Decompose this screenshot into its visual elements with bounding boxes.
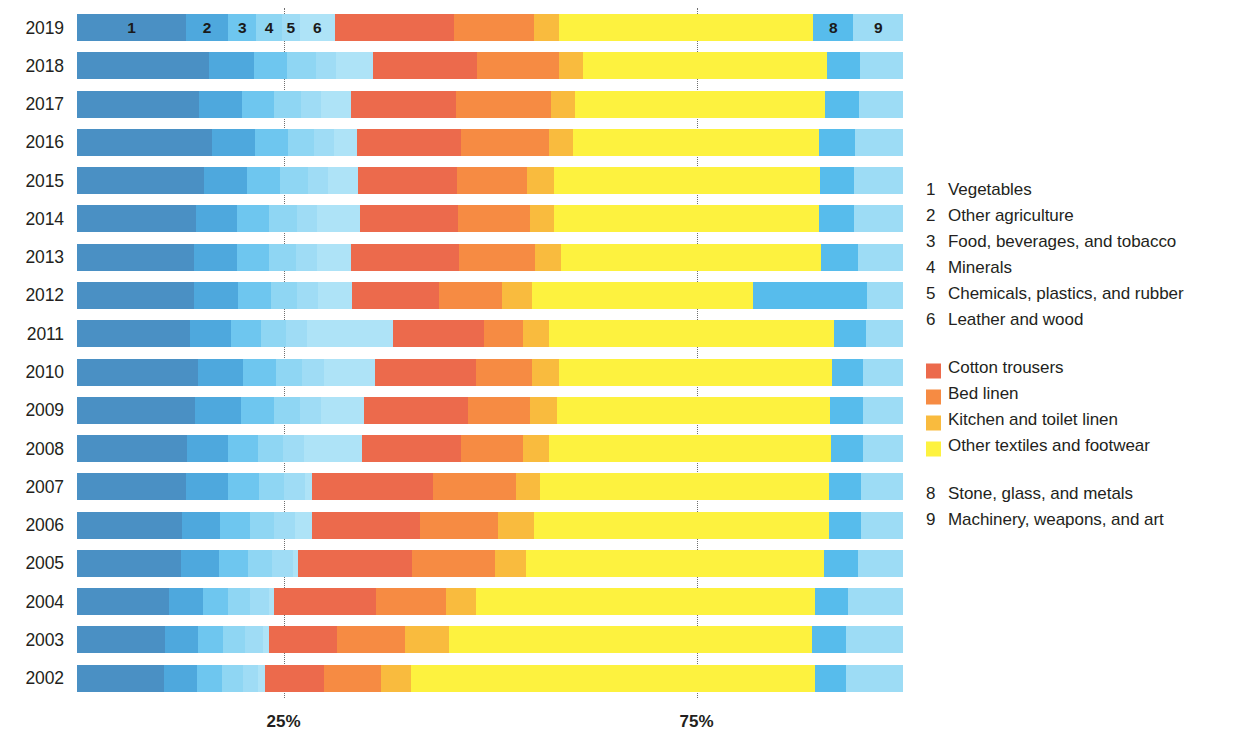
bar-segment[interactable]	[420, 512, 499, 539]
bar-segment[interactable]	[561, 244, 822, 271]
bar-segment[interactable]	[351, 91, 457, 118]
bar-segment[interactable]	[532, 282, 753, 309]
bar-segment[interactable]	[77, 91, 200, 118]
bar-segment[interactable]	[77, 435, 187, 462]
bar-segment[interactable]	[77, 205, 197, 232]
bar-segment[interactable]	[559, 52, 584, 79]
bar-segment[interactable]	[190, 320, 232, 347]
bar-segment[interactable]	[352, 282, 439, 309]
bar-segment[interactable]	[834, 320, 866, 347]
stacked-bar[interactable]	[77, 435, 903, 462]
bar-segment[interactable]	[241, 397, 275, 424]
bar-segment[interactable]	[364, 397, 469, 424]
bar-segment[interactable]	[351, 244, 460, 271]
bar-segment[interactable]	[77, 129, 212, 156]
bar-segment[interactable]	[258, 435, 283, 462]
bar-segment[interactable]	[321, 91, 351, 118]
bar-segment[interactable]	[237, 205, 270, 232]
bar-segment[interactable]	[250, 512, 275, 539]
bar-segment[interactable]	[77, 626, 165, 653]
bar-segment[interactable]	[199, 91, 243, 118]
bar-segment[interactable]	[265, 665, 325, 692]
bar-segment[interactable]	[446, 588, 476, 615]
bar-segment[interactable]	[532, 359, 559, 386]
bar-segment[interactable]	[228, 473, 259, 500]
bar-segment[interactable]	[373, 52, 478, 79]
bar-segment[interactable]	[357, 129, 462, 156]
bar-segment[interactable]	[554, 167, 821, 194]
bar-segment[interactable]	[827, 52, 861, 79]
bar-segment[interactable]	[830, 397, 863, 424]
bar-segment[interactable]	[77, 665, 164, 692]
bar-segment[interactable]	[819, 129, 856, 156]
bar-segment[interactable]	[393, 320, 485, 347]
bar-segment[interactable]	[812, 626, 846, 653]
bar-segment[interactable]	[308, 167, 328, 194]
bar-segment[interactable]	[324, 359, 376, 386]
bar-segment[interactable]	[867, 282, 903, 309]
bar-segment[interactable]	[307, 320, 393, 347]
bar-segment[interactable]	[557, 397, 831, 424]
stacked-bar[interactable]: 12345689	[77, 14, 903, 41]
bar-segment[interactable]	[858, 244, 903, 271]
bar-segment[interactable]	[77, 282, 195, 309]
bar-segment[interactable]	[295, 512, 313, 539]
bar-segment[interactable]	[77, 52, 210, 79]
bar-segment[interactable]	[336, 52, 373, 79]
bar-segment[interactable]	[296, 244, 318, 271]
bar-segment[interactable]	[186, 473, 229, 500]
bar-segment[interactable]	[853, 14, 903, 41]
bar-segment[interactable]	[358, 167, 458, 194]
bar-segment[interactable]	[815, 588, 849, 615]
bar-segment[interactable]	[854, 167, 903, 194]
bar-segment[interactable]	[360, 205, 458, 232]
bar-segment[interactable]	[269, 205, 297, 232]
bar-segment[interactable]	[530, 205, 554, 232]
bar-segment[interactable]	[228, 14, 257, 41]
bar-segment[interactable]	[298, 550, 413, 577]
stacked-bar[interactable]	[77, 52, 903, 79]
bar-segment[interactable]	[245, 626, 264, 653]
bar-segment[interactable]	[77, 359, 199, 386]
bar-segment[interactable]	[300, 397, 322, 424]
bar-segment[interactable]	[476, 588, 815, 615]
legend-item[interactable]: Kitchen and toilet linen	[926, 410, 1233, 436]
bar-segment[interactable]	[813, 14, 854, 41]
bar-segment[interactable]	[861, 473, 903, 500]
bar-segment[interactable]	[248, 550, 273, 577]
bar-segment[interactable]	[77, 512, 183, 539]
stacked-bar[interactable]	[77, 320, 903, 347]
bar-segment[interactable]	[523, 320, 550, 347]
bar-segment[interactable]	[549, 320, 835, 347]
bar-segment[interactable]	[476, 359, 533, 386]
bar-segment[interactable]	[198, 626, 224, 653]
bar-segment[interactable]	[318, 282, 352, 309]
bar-segment[interactable]	[228, 588, 250, 615]
bar-segment[interactable]	[77, 244, 195, 271]
bar-segment[interactable]	[302, 359, 325, 386]
bar-segment[interactable]	[861, 512, 903, 539]
bar-segment[interactable]	[77, 14, 187, 41]
stacked-bar[interactable]	[77, 550, 903, 577]
bar-segment[interactable]	[222, 665, 243, 692]
bar-segment[interactable]	[77, 550, 182, 577]
bar-segment[interactable]	[846, 665, 903, 692]
bar-segment[interactable]	[271, 282, 297, 309]
stacked-bar[interactable]	[77, 244, 903, 271]
bar-segment[interactable]	[461, 129, 549, 156]
bar-segment[interactable]	[77, 167, 205, 194]
bar-segment[interactable]	[272, 550, 293, 577]
bar-segment[interactable]	[312, 473, 433, 500]
bar-segment[interactable]	[825, 91, 860, 118]
bar-segment[interactable]	[334, 129, 358, 156]
bar-segment[interactable]	[457, 167, 528, 194]
bar-segment[interactable]	[848, 588, 903, 615]
bar-segment[interactable]	[77, 397, 196, 424]
bar-segment[interactable]	[551, 91, 576, 118]
bar-segment[interactable]	[314, 129, 334, 156]
stacked-bar[interactable]	[77, 359, 903, 386]
bar-segment[interactable]	[297, 282, 319, 309]
bar-segment[interactable]	[375, 359, 476, 386]
bar-segment[interactable]	[527, 167, 554, 194]
bar-segment[interactable]	[196, 205, 238, 232]
